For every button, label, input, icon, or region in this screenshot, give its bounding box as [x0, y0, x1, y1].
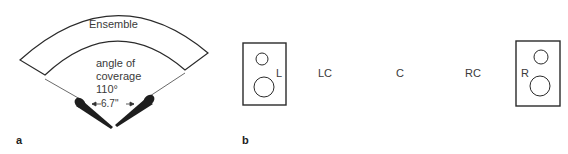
position-label-r: R	[521, 67, 529, 79]
spacing-label: 6.7"	[101, 98, 118, 109]
panel-a-label: a	[16, 134, 22, 146]
diagram-canvas	[0, 0, 568, 154]
position-label-rc: RC	[465, 67, 481, 79]
ensemble-label: Ensemble	[89, 18, 138, 30]
coverage-line-right	[150, 73, 185, 96]
position-label-lc: LC	[318, 67, 332, 79]
coverage-line-left	[45, 79, 80, 99]
coverage-line1: angle of	[96, 57, 141, 70]
coverage-label: angle of coverage 110°	[96, 57, 141, 96]
coverage-angle: 110°	[96, 83, 141, 96]
panel-b-label: b	[242, 134, 249, 146]
position-label-c: C	[396, 67, 404, 79]
coverage-line2: coverage	[96, 70, 141, 83]
position-label-l: L	[276, 67, 282, 79]
microphone-right-icon	[115, 93, 156, 127]
